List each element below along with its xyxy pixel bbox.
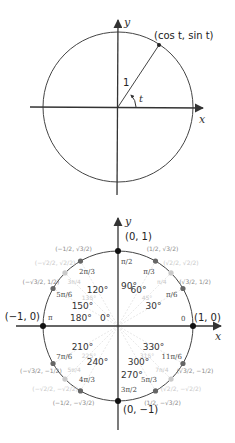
degree-label-30: 30°: [146, 301, 162, 311]
point-dot: [157, 43, 161, 47]
top-unit-circle-diagram: y x (cos t, sin t) 1 t: [30, 16, 214, 195]
coord-label-240: (−1/2, −√3/2): [53, 399, 95, 406]
radian-label-210: 7π/6: [56, 353, 72, 361]
angle-point-225: [62, 376, 67, 381]
degree-label-330: 330°: [143, 342, 165, 352]
radius-label: 1: [123, 77, 129, 88]
coord-label-30: (√3/2, 1/2): [179, 278, 211, 285]
cardinal-coord-90: (0, 1): [125, 231, 152, 242]
cardinal-point-270: [115, 398, 121, 404]
coord-label-225: (−√2/2, −√2/2): [32, 385, 78, 392]
coord-label-135: (−√2/2, √2/2): [35, 259, 75, 266]
coord-label-210: (−√3/2, −1/2): [20, 367, 62, 374]
angle-label: t: [139, 93, 144, 104]
cardinal-coord-180: (−1, 0): [5, 311, 40, 322]
cardinal-point-0: [190, 323, 196, 329]
angle-point-120: [78, 258, 83, 263]
radian-label-315: 7π/4: [155, 366, 168, 373]
y-axis-label: y: [124, 215, 132, 228]
coord-label-150: (−√3/2, 1/2): [23, 278, 60, 285]
cardinal-radian-270: 3π/2: [121, 386, 137, 394]
radian-label-240: 4π/3: [79, 376, 95, 384]
cardinal-radian-90: π/2: [121, 258, 132, 266]
point-label: (cos t, sin t): [154, 30, 214, 41]
cardinal-point-180: [40, 323, 46, 329]
cardinal-coord-0: (1, 0): [194, 312, 221, 323]
angle-point-300: [153, 388, 158, 393]
coord-label-45: (√2/2, √2/2): [163, 259, 198, 266]
cardinal-radian-180: π: [48, 314, 53, 322]
coord-label-330: (√3/2, −1/2): [177, 367, 214, 374]
radian-label-30: π/6: [166, 291, 178, 299]
radian-label-150: 5π/6: [56, 291, 72, 299]
cardinal-degree-270: 270°: [121, 370, 143, 380]
angle-point-210: [50, 361, 55, 366]
y-axis-label: y: [123, 16, 131, 29]
angle-point-150: [50, 286, 55, 291]
radian-label-60: π/3: [143, 268, 154, 276]
x-axis-label: x: [199, 113, 206, 126]
cardinal-radian-0: 0: [181, 315, 185, 323]
angle-point-45: [168, 270, 173, 275]
bottom-unit-circle-diagram: yxπ/630°(√3/2, 1/2)π/445°(√2/2, √2/2)π/3…: [5, 215, 222, 430]
radian-label-300: 5π/3: [141, 376, 157, 384]
degree-label-150: 150°: [72, 301, 94, 311]
radian-label-225: 5π/4: [68, 366, 81, 373]
angle-point-330: [180, 361, 185, 366]
coord-label-315: (√2/2, −√2/2): [161, 385, 201, 392]
angle-point-315: [168, 376, 173, 381]
cardinal-degree-0: 0°: [100, 313, 110, 323]
coord-label-60: (1/2, √3/2): [147, 245, 179, 252]
cardinal-point-90: [115, 248, 121, 254]
x-axis: [30, 107, 203, 108]
angle-point-240: [78, 388, 83, 393]
cardinal-degree-180: 180°: [70, 313, 92, 323]
radian-label-135: 3π/4: [68, 278, 81, 285]
radian-label-330: 11π/6: [162, 353, 183, 361]
degree-label-315: 315°: [140, 352, 154, 359]
angle-point-60: [153, 258, 158, 263]
cardinal-coord-270: (0, −1): [123, 404, 158, 415]
angle-point-30: [180, 286, 185, 291]
unit-circle-figure: y x (cos t, sin t) 1 t yxπ/630°(√3/2, 1/…: [0, 0, 235, 443]
angle-point-135: [62, 270, 67, 275]
degree-label-210: 210°: [72, 342, 94, 352]
radian-label-45: π/4: [157, 278, 167, 285]
y-axis: [117, 20, 118, 195]
angle-arc: [131, 95, 136, 107]
degree-label-240: 240°: [87, 357, 109, 367]
radian-label-120: 2π/3: [79, 268, 95, 276]
x-axis-label: x: [215, 330, 222, 343]
coord-label-120: (−1/2, √3/2): [55, 245, 92, 252]
cardinal-degree-90: 90°: [121, 281, 137, 291]
